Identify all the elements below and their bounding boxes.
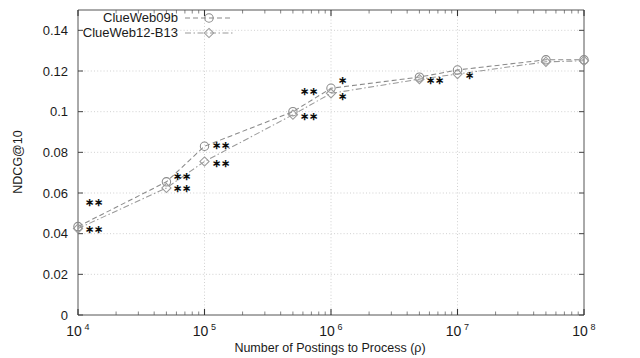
y-tick-label: 0.04 (43, 226, 68, 241)
legend-label: ClueWeb12-B13 (83, 25, 178, 40)
significance-star: ∗∗ (300, 110, 318, 122)
x-tick-mantissa: 10 (319, 323, 335, 339)
y-tick-label: 0 (61, 308, 68, 323)
ndcg-vs-postings-line-chart: 00.020.040.060.080.10.120.14 10410510610… (0, 0, 640, 358)
x-tick-exponent: 8 (590, 322, 595, 332)
y-tick-label: 0.02 (43, 267, 68, 282)
x-tick-mantissa: 10 (66, 323, 82, 339)
chart-figure: 00.020.040.060.080.10.120.14 10410510610… (0, 0, 640, 358)
x-tick-exponent: 4 (84, 322, 89, 332)
x-tick-exponent: 5 (211, 322, 216, 332)
y-tick-label: 0.08 (43, 145, 68, 160)
significance-star: ∗ (465, 69, 474, 81)
significance-star: ∗ (338, 74, 347, 86)
x-tick-mantissa: 10 (193, 323, 209, 339)
y-axis-title: NDCG@10 (11, 130, 25, 193)
y-tick-label: 0.12 (43, 64, 68, 79)
x-tick-mantissa: 10 (446, 323, 462, 339)
x-tick-exponent: 6 (337, 322, 342, 332)
significance-star: ∗∗ (212, 157, 230, 169)
significance-star: ∗∗ (85, 223, 103, 235)
significance-star: ∗∗ (300, 85, 318, 97)
y-tick-label: 0.06 (43, 186, 68, 201)
legend-label: ClueWeb09b (103, 10, 178, 25)
y-tick-label: 0.14 (43, 23, 68, 38)
x-tick-exponent: 7 (464, 322, 469, 332)
x-tick-mantissa: 10 (572, 323, 588, 339)
significance-star: ∗ (338, 90, 347, 102)
significance-star: ∗∗ (426, 74, 444, 86)
significance-star: ∗∗ (85, 196, 103, 208)
x-axis-title: Number of Postings to Process (ρ) (234, 341, 425, 355)
y-tick-label: 0.1 (50, 104, 68, 119)
significance-star: ∗∗ (212, 139, 230, 151)
significance-star: ∗∗ (173, 170, 191, 182)
chart-background (0, 0, 640, 358)
significance-star: ∗∗ (173, 182, 191, 194)
